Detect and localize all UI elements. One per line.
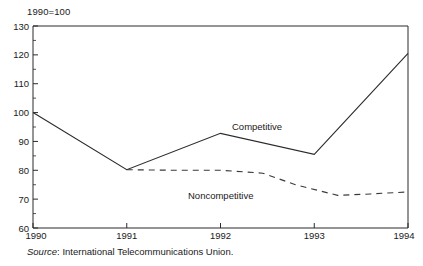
x-tick-label: 1991: [116, 230, 137, 240]
y-axis-tick-labels: 130 120 110 100 90 80 70 60: [13, 21, 29, 234]
y-tick-label: 100: [13, 107, 29, 118]
x-tick-label: 1992: [210, 230, 231, 240]
series-label-competitive: Competitive: [232, 121, 282, 132]
y-tick-label: 70: [18, 194, 29, 205]
x-tick-label: 1993: [304, 230, 325, 240]
series-line-noncompetitive: [127, 170, 408, 196]
source-citation: : International Telecommunications Union…: [57, 246, 233, 257]
line-chart-plot: 130 120 110 100 90 80 70 60 1990 1991 19…: [0, 0, 423, 240]
y-tick-label: 120: [13, 49, 29, 60]
y-tick-label: 90: [18, 136, 29, 147]
source-label: Source: [27, 246, 57, 257]
series-label-noncompetitive: Noncompetitive: [188, 190, 253, 201]
y-axis-unit-label: 1990=100: [27, 6, 70, 17]
y-tick-label: 110: [14, 78, 29, 89]
y-tick-label: 130: [13, 21, 29, 32]
x-axis-tick-labels: 1990 1991 1992 1993 1994: [25, 230, 414, 240]
series-line-competitive: [33, 53, 408, 169]
x-tick-label: 1990: [25, 230, 46, 240]
x-tick-label: 1994: [393, 230, 414, 240]
x-axis-ticks: [33, 223, 408, 228]
chart-figure: 1990=100 130 120 11: [0, 0, 423, 266]
source-note: Source: International Telecommunications…: [27, 246, 233, 257]
y-tick-label: 80: [18, 165, 29, 176]
